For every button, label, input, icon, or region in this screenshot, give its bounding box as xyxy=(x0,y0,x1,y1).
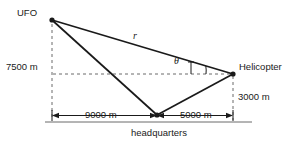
segment-ufo-headquarters xyxy=(52,20,157,115)
ufo-height-label: 7500 m xyxy=(6,62,38,72)
segment-ufo-helicopter xyxy=(52,20,233,74)
dimension-arrow-9000-left xyxy=(52,113,59,118)
helicopter-label: Helicopter xyxy=(239,62,282,72)
helicopter-height-label: 3000 m xyxy=(238,92,270,102)
ufo-point-marker xyxy=(49,17,54,22)
ufo-label: UFO xyxy=(17,8,37,18)
ufo-triangulation-diagram: UFO Helicopter 7500 m 3000 m 9000 m 5000… xyxy=(0,0,284,148)
base-right-dimension-label: 5000 m xyxy=(180,110,212,120)
headquarters-label: headquarters xyxy=(131,128,187,138)
range-label: r xyxy=(133,31,137,41)
dimension-arrow-5000-right xyxy=(226,113,233,118)
diagram-canvas xyxy=(0,0,284,148)
base-left-dimension-label: 9000 m xyxy=(85,110,117,120)
helicopter-point-marker xyxy=(230,71,235,76)
theta-angle-label: θ xyxy=(174,56,179,66)
